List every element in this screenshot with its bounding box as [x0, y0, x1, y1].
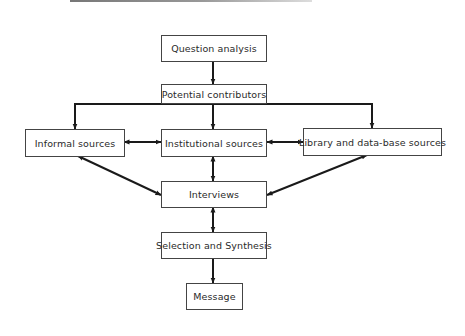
- node-library-sources: Library and data-base sources: [303, 128, 442, 156]
- node-institutional-sources: Institutional sources: [161, 129, 267, 157]
- node-question-analysis: Question analysis: [161, 35, 267, 62]
- arrow-library-interviews: [267, 155, 367, 195]
- node-message: Message: [186, 283, 243, 310]
- node-potential-contributors: Potential contributors: [161, 84, 267, 104]
- node-informal-sources: Informal sources: [25, 129, 125, 157]
- node-interviews: Interviews: [161, 181, 267, 208]
- arrow-informal-interviews: [78, 156, 161, 195]
- node-selection-synthesis: Selection and Synthesis: [161, 232, 267, 259]
